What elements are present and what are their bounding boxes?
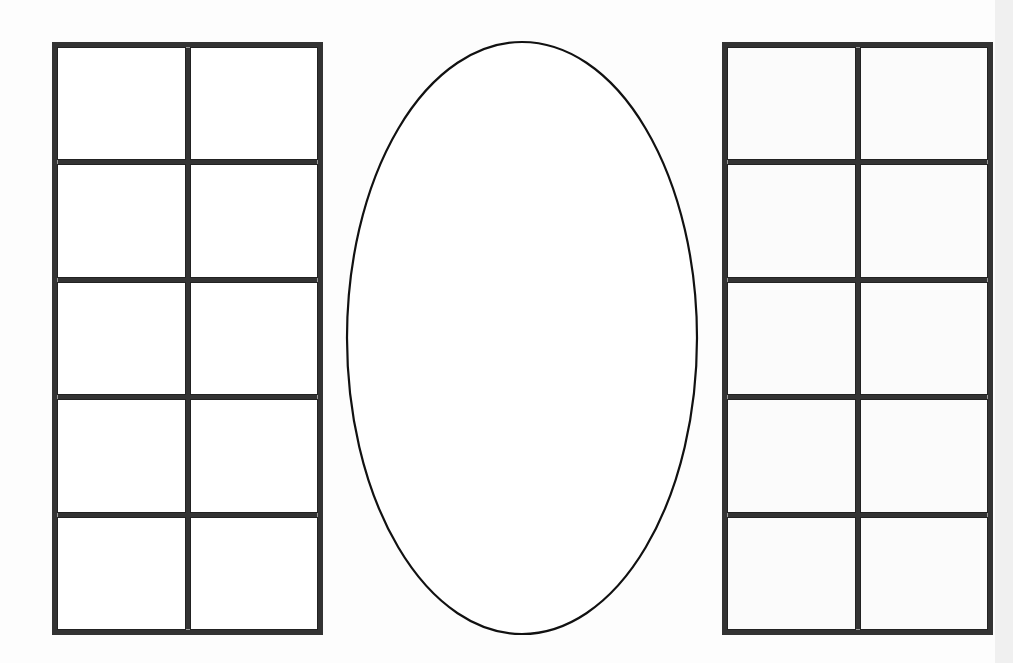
table-cell: [860, 47, 989, 160]
table-cell: [727, 47, 856, 160]
table-cell: [860, 282, 989, 395]
table-cell: [727, 164, 856, 277]
table-cell: [860, 517, 989, 630]
table-cell: [860, 164, 989, 277]
table-cell: [727, 399, 856, 512]
table-cell: [860, 399, 989, 512]
table-cell: [727, 282, 856, 395]
table-cell: [727, 517, 856, 630]
right-grid-table: [722, 42, 993, 635]
